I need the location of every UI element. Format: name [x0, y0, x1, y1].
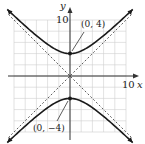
y-axis-arrow-icon: [68, 7, 73, 13]
leader-line-top: [72, 32, 84, 51]
hyperbola-plot: y 10 10 x (0, 4) (0, −4): [0, 0, 145, 144]
vertex-top-label: (0, 4): [81, 19, 105, 29]
vertex-bottom-point: [68, 96, 72, 100]
y-axis-label: y: [59, 0, 66, 11]
x-tick-label: 10: [122, 79, 135, 90]
vertex-bottom-label: (0, −4): [33, 123, 65, 133]
x-axis-arrow-icon: [133, 74, 139, 79]
x-axis-label: x: [137, 79, 143, 90]
y-tick-label: 10: [56, 14, 69, 25]
vertex-top-point: [68, 52, 72, 56]
